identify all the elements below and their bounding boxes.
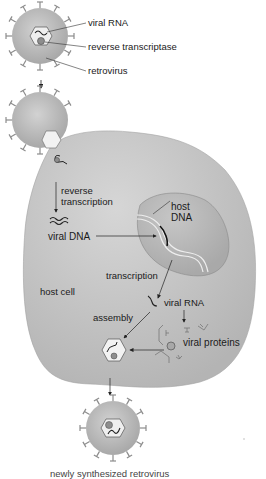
- reverse-transcriptase-icon: [38, 38, 45, 45]
- label-reverse-transcription-1: reverse: [61, 186, 93, 196]
- reverse-transcriptase-icon: [167, 342, 175, 350]
- label-host-cell: host cell: [40, 287, 75, 297]
- label-host-dna-2: DNA: [171, 213, 192, 223]
- retrovirus-new: [80, 395, 146, 461]
- label-viral-dna: viral DNA: [48, 232, 90, 242]
- retrovirus-top: [6, 2, 86, 71]
- label-host-dna-1: host: [171, 202, 190, 212]
- label-retrovirus: retrovirus: [88, 66, 128, 76]
- label-viral-rna-top: viral RNA: [88, 18, 128, 28]
- label-viral-proteins: viral proteins: [183, 338, 240, 348]
- label-reverse-transcription-2: transcription: [61, 197, 113, 207]
- label-assembly: assembly: [93, 313, 133, 323]
- label-reverse-transcriptase: reverse transcriptase: [88, 42, 177, 52]
- label-caption: newly synthesized retrovirus: [50, 469, 169, 479]
- label-transcription: transcription: [106, 271, 158, 281]
- label-viral-rna-cell: viral RNA: [164, 298, 204, 308]
